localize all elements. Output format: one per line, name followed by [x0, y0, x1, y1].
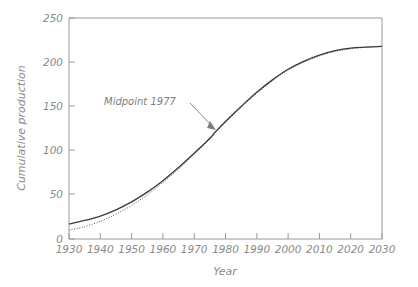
annotation-label-midpoint: Midpoint 1977: [104, 96, 177, 107]
y-tick-label-100: 100: [43, 144, 63, 156]
x-tick-label-1930: 1930: [56, 243, 83, 255]
x-tick-label-2030: 2030: [369, 243, 396, 255]
x-tick-label-1950: 1950: [118, 243, 145, 255]
x-tick-label-1940: 1940: [87, 243, 114, 255]
y-axis-title: Cumulative production: [15, 65, 28, 191]
x-tick-label-2000: 2000: [275, 243, 302, 255]
x-tick-label-1980: 1980: [212, 243, 239, 255]
x-tick-label-2010: 2010: [306, 243, 333, 255]
x-tick-label-1970: 1970: [181, 243, 208, 255]
y-tick-label-50: 50: [50, 188, 64, 200]
y-tick-label-200: 200: [43, 56, 63, 68]
y-tick-label-150: 150: [43, 100, 63, 112]
x-tick-label-1960: 1960: [150, 243, 177, 255]
x-tick-labels: 1930 1940 1950 1960 1970 1980 1990 2000 …: [56, 243, 396, 255]
y-tick-label-250: 250: [43, 12, 63, 24]
chart-figure: 0 50 100 150 200 250 Cumulative producti…: [0, 0, 418, 287]
chart-canvas: 0 50 100 150 200 250 Cumulative producti…: [0, 0, 418, 287]
x-tick-label-1990: 1990: [243, 243, 270, 255]
x-axis-title: Year: [213, 265, 238, 278]
x-tick-label-2020: 2020: [337, 243, 364, 255]
